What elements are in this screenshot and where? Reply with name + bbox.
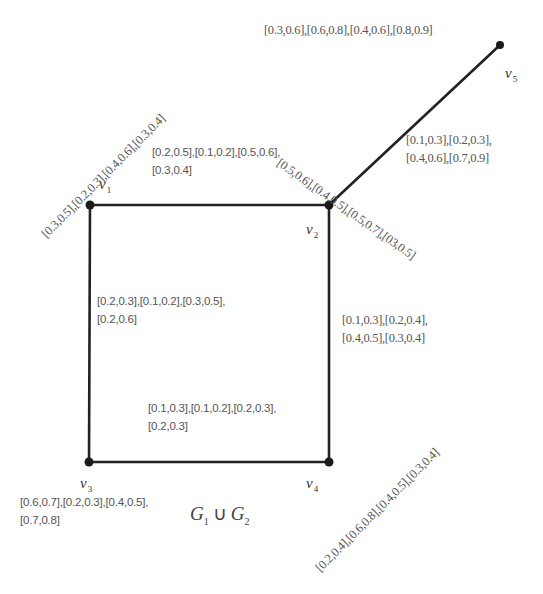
vertex-v4 xyxy=(325,458,334,467)
edge-v1-v3 xyxy=(89,205,90,462)
edge-label-v2-v4-line1: [0.1,0.3],[0.2,0.4], xyxy=(342,312,428,329)
edge-label-v2-v5-line1: [0.1,0.3],[0.2,0.3], xyxy=(406,132,492,149)
vertex-label-v3-line1: [0.6,0.7],[0.2,0.3],[0.4,0.5], xyxy=(20,494,148,511)
vertex-name-v4: v4 xyxy=(306,475,318,494)
edge-label-v1-v3-line1: [0.2,0.3],[0.1,0.2],[0.3,0.5], xyxy=(97,293,225,310)
edge-label-v1-v2-line1: [0.2,0.5],[0.1,0.2],[0.5,0.6], xyxy=(152,144,280,161)
vertex-label-v5: [0.3,0.6],[0.6,0.8],[0.4,0.6],[0.8,0.9] xyxy=(264,22,432,39)
edge-v2-v5 xyxy=(329,45,500,205)
vertex-name-v2: v2 xyxy=(306,221,318,240)
vertex-name-v3: v3 xyxy=(80,475,92,494)
vertex-v5 xyxy=(496,41,504,49)
vertex-name-v5: v5 xyxy=(505,65,517,84)
edge-label-v2-v5-line2: [0.4,0.6],[0.7,0.9] xyxy=(406,150,489,167)
vertex-v3 xyxy=(85,458,94,467)
vertex-label-v3-line2: [0.7,0.8] xyxy=(20,512,60,529)
edge-label-v1-v3-line2: [0.2,0.6] xyxy=(97,311,137,328)
edge-label-v2-v4-line2: [0.4,0.5],[0.3,0.4] xyxy=(342,330,425,347)
edge-label-v3-v4-line2: [0.2,0.3] xyxy=(148,418,188,435)
edge-label-v3-v4-line1: [0.1,0.3],[0.1,0.2],[0.2,0.3], xyxy=(148,400,276,417)
graph-title: G1∪G2 xyxy=(190,502,249,527)
edge-label-v1-v2-line2: [0.3,0.4] xyxy=(152,162,192,179)
